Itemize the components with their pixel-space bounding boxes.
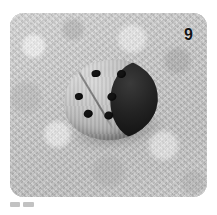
caption-chip [10, 202, 20, 207]
screenshot-root: 9 [0, 0, 217, 215]
caption-chip [23, 202, 34, 207]
photo-card[interactable]: 9 [10, 13, 207, 197]
photo-number-label: 9 [184, 27, 193, 43]
ladybug-body [58, 53, 163, 147]
caption-strip [10, 202, 34, 207]
ladybug-object [56, 51, 166, 151]
